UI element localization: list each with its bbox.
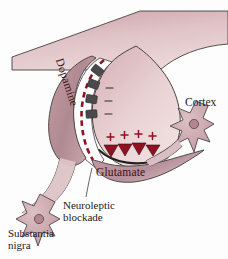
label-substantia-nigra: Substantia nigra	[8, 228, 54, 252]
figure-canvas: Dopamine Glutamate Cortex Neuroleptic bl…	[0, 0, 228, 259]
label-glutamate: Glutamate	[96, 166, 145, 178]
label-neuroleptic-blockade: Neuroleptic blockade	[63, 200, 115, 224]
neuroleptic-leader-line	[86, 168, 92, 197]
label-cortex: Cortex	[185, 96, 216, 108]
